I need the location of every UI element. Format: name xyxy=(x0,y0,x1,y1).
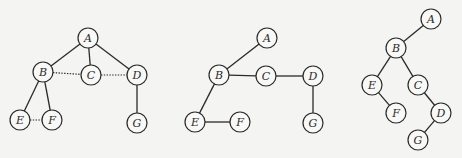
node-e: E xyxy=(185,112,205,132)
node-c: C xyxy=(408,75,428,95)
edge-b-c xyxy=(229,75,256,76)
node-label: F xyxy=(47,114,56,127)
edge-a-d xyxy=(96,44,129,69)
node-e: E xyxy=(362,75,382,95)
node-c: C xyxy=(81,65,101,85)
edge-a-c xyxy=(89,48,90,65)
node-d: D xyxy=(431,103,451,123)
edge-c-d xyxy=(424,93,434,106)
node-label: C xyxy=(87,69,96,82)
node-label: E xyxy=(190,116,199,129)
node-label: A xyxy=(83,32,92,45)
node-f: F xyxy=(42,110,62,130)
node-label: F xyxy=(391,107,400,120)
edge-e-f xyxy=(379,93,390,106)
node-label: F xyxy=(235,116,244,129)
node-f: F xyxy=(386,103,406,123)
node-d: D xyxy=(127,65,147,85)
node-a: A xyxy=(78,28,98,48)
node-label: A xyxy=(262,32,271,45)
node-e: E xyxy=(10,110,30,130)
node-label: B xyxy=(391,42,400,55)
edge-a-b xyxy=(404,25,424,41)
node-b: B xyxy=(33,62,53,82)
graph-transformed: ABCDEFG xyxy=(185,28,323,133)
node-g: G xyxy=(408,130,428,150)
node-label: G xyxy=(133,117,142,130)
node-g: G xyxy=(127,113,147,133)
node-label: D xyxy=(132,69,142,82)
node-label: G xyxy=(309,117,318,130)
node-label: C xyxy=(414,79,423,92)
node-label: D xyxy=(436,107,446,120)
graph-original: ABCDEFG xyxy=(10,28,147,133)
edge-b-e xyxy=(200,84,215,113)
node-f: F xyxy=(230,112,250,132)
node-c: C xyxy=(256,66,276,86)
graph-binary-tree: ABECFDG xyxy=(362,9,451,150)
node-label: D xyxy=(308,70,318,83)
edge-a-b xyxy=(227,44,259,69)
edge-b-e xyxy=(24,81,38,111)
node-a: A xyxy=(257,28,277,48)
node-g: G xyxy=(303,113,323,133)
edge-b-c xyxy=(401,57,413,77)
node-label: G xyxy=(414,134,423,147)
edge-b-e xyxy=(377,56,390,76)
node-label: E xyxy=(367,79,376,92)
edge-d-g xyxy=(424,121,434,133)
node-b: B xyxy=(209,65,229,85)
node-label: B xyxy=(214,69,223,82)
node-label: E xyxy=(15,114,24,127)
node-label: C xyxy=(262,70,271,83)
node-label: B xyxy=(38,66,47,79)
edge-b-c-dotted xyxy=(53,73,81,75)
edge-a-b xyxy=(51,44,80,66)
tree-conversion-diagram: ABCDEFGABCDEFGABECFDG xyxy=(0,0,462,158)
node-b: B xyxy=(386,38,406,58)
node-label: A xyxy=(426,13,435,26)
edge-b-f xyxy=(45,82,50,110)
node-a: A xyxy=(421,9,441,29)
node-d: D xyxy=(303,66,323,86)
